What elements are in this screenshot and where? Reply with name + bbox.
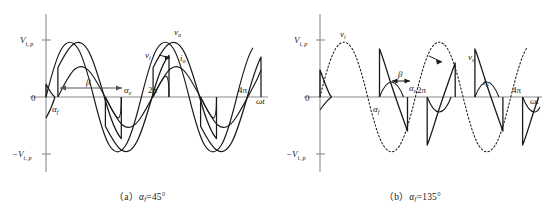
panel-a-xlabel: ωt [256,96,265,106]
panel-a-ylabel-top: Vi, p [20,35,33,47]
panel-a-alpha-e-label: αe [124,85,132,96]
figure-container: Vi, p 0 −Vi, p 2π 4π ωt αf αe β vi vo io… [0,0,553,205]
panel-a-io-label: io [180,53,186,64]
panel-a-vo-label: vo [174,27,181,38]
panel-b-ylabel-bottom: −Vi, p [286,149,306,161]
panel-b-caption: （b）αf=135° [272,189,553,203]
panel-b-alpha-f-label: αf [373,104,381,115]
panel-a-ylabel-bottom: −Vi, p [12,149,32,161]
panel-a-vo-seg1 [58,42,121,138]
panel-a-xtick-2pi: 2π [148,85,158,95]
panel-a-alpha-f-label: αf [52,104,60,115]
panel-b-caption-paren: （b） [384,192,409,202]
panel-b-vo-label: vo [468,52,475,63]
panel-a: Vi, p 0 −Vi, p 2π 4π ωt αf αe β vi vo io… [0,0,280,205]
panel-b-beta-label: β [397,69,403,79]
panel-b-ylabel-top: Vi, p [294,35,307,47]
panel-a-vi-label: vi [145,50,151,61]
panel-b-io-label: io [483,77,489,88]
panel-b-xtick-4pi: 4π [512,85,522,95]
panel-b-vo-seg1 [380,49,408,131]
panel-a-xtick-4pi: 4π [238,85,248,95]
panel-b-svg: Vi, p 0 −Vi, p 2π 4π ωt αf αe β vi vo io [272,0,553,178]
panel-b-io-seg0 [320,97,332,110]
panel-b-vo-seg2 [427,63,455,145]
panel-a-plot: Vi, p 0 −Vi, p 2π 4π ωt αf αe β vi vo io [0,0,280,178]
panel-b-vo-seg3 [475,49,503,131]
panel-a-ylabel-zero: 0 [31,93,36,103]
panel-b-xtick-2pi: 2π [417,85,427,95]
panel-a-beta-label: β [85,77,91,87]
panel-b-xlabel: ωt [530,96,539,106]
panel-b: Vi, p 0 −Vi, p 2π 4π ωt αf αe β vi vo io… [272,0,553,205]
panel-a-vo-seg2 [105,56,169,152]
panel-a-caption-paren: （a） [114,192,139,202]
panel-b-vi-label: vi [340,29,346,40]
panel-a-caption-value: =45° [146,192,165,202]
panel-b-vi-pointer [429,56,442,65]
panel-a-caption: （a）αf=45° [0,189,280,203]
panel-b-plot: Vi, p 0 −Vi, p 2π 4π ωt αf αe β vi vo io [272,0,553,178]
panel-a-svg: Vi, p 0 −Vi, p 2π 4π ωt αf αe β vi vo io [0,0,280,178]
panel-b-alpha-e-label: αe [409,83,417,94]
panel-a-vo-seg4 [201,57,261,152]
panel-b-ylabel-zero: 0 [305,93,310,103]
panel-b-caption-value: =135° [417,192,441,202]
